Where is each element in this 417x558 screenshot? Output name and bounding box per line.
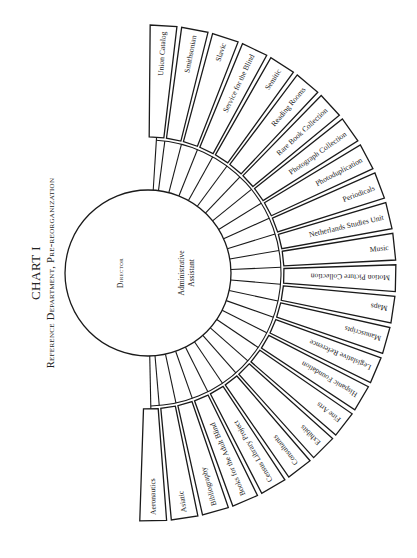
- connector-spoke: [229, 290, 278, 301]
- connector-spoke: [169, 144, 182, 192]
- director-circle: [65, 190, 231, 356]
- director-text-group: Director: [116, 258, 125, 288]
- assistant-label-line1: Administrative: [177, 250, 186, 296]
- division-label: Aeronautics: [148, 478, 158, 515]
- connector-spoke: [231, 280, 281, 284]
- director-label: Director: [116, 258, 125, 288]
- connector-spoke: [226, 301, 273, 318]
- connector-spoke: [155, 356, 159, 406]
- division-label: Motion Picture Collection: [310, 272, 390, 283]
- connector-spoke: [230, 250, 279, 258]
- connector-spoke: [205, 177, 240, 213]
- connector-spoke: [222, 310, 267, 333]
- connector-stem: [153, 137, 156, 190]
- connector-spoke: [219, 203, 262, 229]
- connector-spoke: [227, 234, 275, 249]
- connector-spoke: [185, 347, 208, 392]
- connector-spoke: [217, 319, 258, 347]
- org-fan-diagram: Union CatalogSmithsonianSlavicService fo…: [0, 0, 417, 558]
- connector-spoke: [210, 328, 248, 361]
- connector-spoke: [231, 267, 281, 269]
- connector-spoke: [197, 166, 227, 206]
- connector-spoke: [213, 189, 252, 220]
- connector-spoke: [224, 218, 270, 239]
- connector-spoke: [165, 354, 176, 403]
- connector-spoke: [158, 141, 164, 191]
- connector-spoke: [194, 342, 222, 383]
- connector-spoke: [203, 335, 236, 373]
- connector-spoke: [176, 351, 193, 398]
- assistant-label-line2: Assistant: [187, 258, 196, 286]
- connector-stem: [150, 356, 151, 409]
